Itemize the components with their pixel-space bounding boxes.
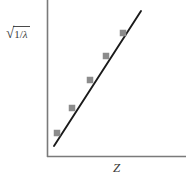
sqrt-denominator-lambda: λ xyxy=(23,28,28,40)
x-axis-label: Z xyxy=(113,161,121,174)
sqrt-radicand: 1/λ xyxy=(13,26,29,40)
sqrt-expression: √ 1/λ xyxy=(6,26,30,40)
data-point-marker xyxy=(54,130,61,137)
data-point-marker xyxy=(103,53,110,60)
data-point-marker xyxy=(120,30,127,37)
moseley-plot-figure: √ 1/λ Z xyxy=(0,0,190,184)
data-point-marker xyxy=(69,105,76,112)
data-markers xyxy=(54,30,127,137)
axes-group xyxy=(47,0,186,157)
data-point-marker xyxy=(87,77,94,84)
best-fit-line xyxy=(54,11,141,146)
data-group xyxy=(54,11,141,146)
y-axis-label: √ 1/λ xyxy=(6,26,30,40)
sqrt-radical-sign: √ xyxy=(6,26,14,41)
